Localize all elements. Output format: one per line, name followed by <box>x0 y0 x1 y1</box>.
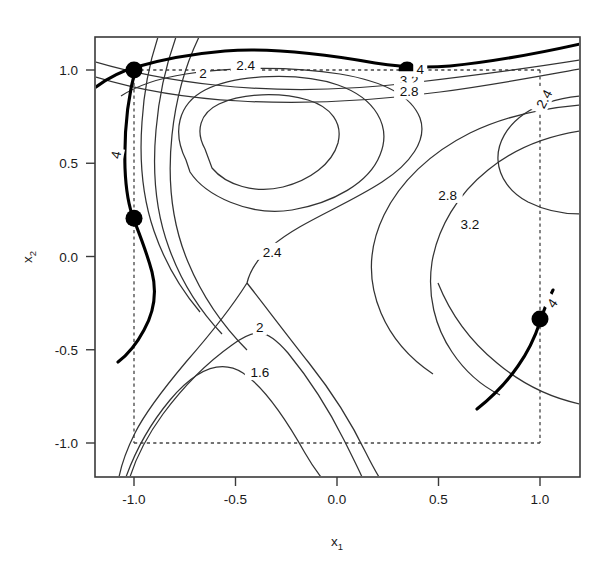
optimum-point <box>126 62 143 79</box>
optimum-point <box>126 210 143 227</box>
contour-label: 2 <box>199 66 207 81</box>
x-tick-label: -0.5 <box>224 492 247 507</box>
y-tick-label: 0.0 <box>59 250 78 265</box>
contour-label: 4 <box>416 62 424 77</box>
contour-label: 2.8 <box>438 188 457 203</box>
y-tick-label: 1.0 <box>59 63 78 78</box>
y-tick-label: 0.5 <box>59 156 78 171</box>
contour-plot-figure: -1.0-0.50.00.51.0 1.00.50.0-0.5-1.0 x1 x… <box>0 0 612 574</box>
contour-label: 3.2 <box>461 217 480 232</box>
contour-label: 2.8 <box>400 84 419 99</box>
x-tick-label: 0.0 <box>328 492 347 507</box>
y-tick-label: -1.0 <box>55 436 78 451</box>
optimum-point <box>532 310 549 327</box>
y-tick-label: -0.5 <box>55 343 78 358</box>
x-tick-label: 1.0 <box>531 492 550 507</box>
x-tick-label: -1.0 <box>122 492 145 507</box>
contour-label: 2.4 <box>236 58 255 73</box>
figure-background <box>0 0 612 574</box>
contour-plot-svg: -1.0-0.50.00.51.0 1.00.50.0-0.5-1.0 x1 x… <box>0 0 612 574</box>
contour-label: 1.6 <box>250 365 269 380</box>
contour-label: 2.4 <box>263 245 282 260</box>
x-tick-label: 0.5 <box>429 492 448 507</box>
contour-label: 2 <box>256 320 264 335</box>
